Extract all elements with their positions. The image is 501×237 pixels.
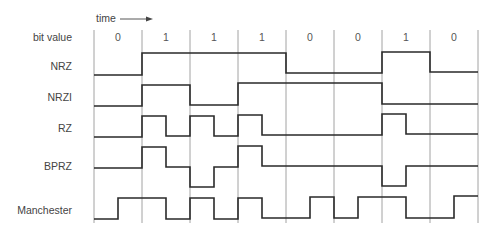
bit-1: 1 (163, 31, 169, 43)
bit-3: 1 (259, 31, 265, 43)
label-manchester: Manchester (17, 204, 72, 216)
bit-0: 0 (115, 31, 121, 43)
bit-6: 1 (403, 31, 409, 43)
time-arrow-icon (120, 17, 153, 22)
bit-4: 0 (307, 31, 313, 43)
bit-2: 1 (211, 31, 217, 43)
bit-5: 0 (355, 31, 361, 43)
label-nrz: NRZ (50, 60, 72, 72)
label-nrzi: NRZI (48, 91, 73, 103)
bit-7: 0 (451, 31, 457, 43)
waveform-nrz (94, 52, 478, 75)
bit-value-label: bit value (33, 31, 72, 43)
label-rz: RZ (58, 122, 73, 134)
label-bprz: BPRZ (44, 160, 73, 172)
time-axis-label: time (96, 12, 116, 24)
line-coding-diagram: time bit value NRZ NRZI RZ BPRZ Manchest… (0, 0, 501, 237)
